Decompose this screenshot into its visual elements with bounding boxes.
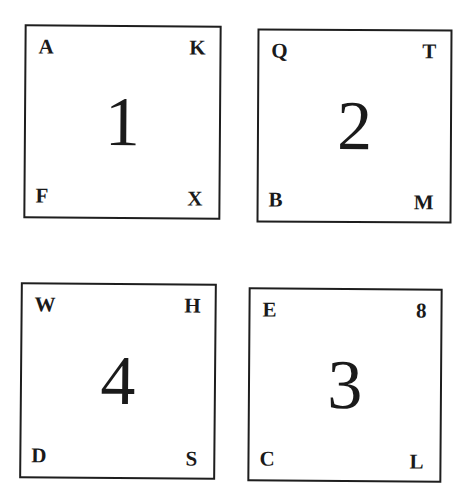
card-3-bottom-left: C [259, 448, 274, 469]
card-3-bottom-right: L [409, 451, 423, 472]
card-4-bottom-left: D [31, 445, 46, 466]
card-1-number: 1 [26, 86, 219, 157]
card-1-bottom-left: F [35, 185, 48, 206]
card-2-top-right: T [422, 41, 436, 62]
card-3-number: 3 [250, 349, 440, 420]
card-2-bottom-right: M [414, 192, 434, 213]
card-4-top-left: W [35, 294, 56, 315]
card-1-bottom-right: X [187, 188, 202, 209]
card-4-top-right: H [184, 296, 201, 317]
card-3-top-left: E [262, 299, 276, 320]
card-3-top-right: 8 [416, 300, 427, 321]
card-4-bottom-right: S [186, 449, 198, 470]
card-1-top-right: K [189, 37, 205, 58]
card-2-bottom-left: B [269, 190, 283, 211]
card-1-top-left: A [38, 36, 53, 57]
card-2: Q T 2 B M [256, 28, 452, 223]
card-3: E 8 3 C L [247, 287, 442, 482]
card-2-top-left: Q [271, 41, 287, 62]
card-4: W H 4 D S [19, 282, 217, 480]
card-2-number: 2 [259, 91, 450, 162]
card-1: A K 1 F X [23, 24, 221, 219]
card-4-number: 4 [22, 345, 215, 417]
